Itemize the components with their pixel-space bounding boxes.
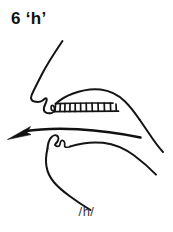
airflow-arrow-head	[8, 127, 32, 140]
pharyngeal-wall-path	[140, 120, 164, 153]
sagittal-vocal-tract-diagram	[0, 0, 173, 232]
tongue-path	[70, 142, 156, 174]
figure-caption-phoneme: /h/	[0, 205, 173, 218]
airflow-arrow-line	[24, 129, 141, 138]
jaw-chin-path	[46, 149, 91, 211]
upper-teeth-divisions	[55, 103, 116, 111]
phonetics-figure: 6 ‘h’	[0, 0, 173, 232]
